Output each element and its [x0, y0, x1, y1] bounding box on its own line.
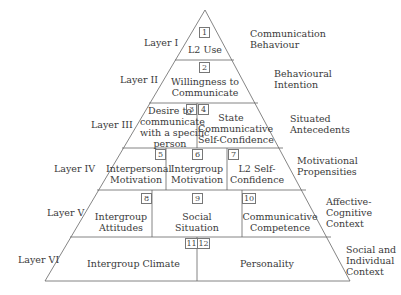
layer-6-label: Layer VI — [18, 254, 59, 265]
box-number-9: 9 — [192, 193, 203, 204]
box-number-6: 6 — [192, 149, 203, 160]
category-layer-5: Affective-CognitiveContext — [326, 196, 372, 229]
box-10-competence: CommunicativeCompetence — [242, 211, 318, 233]
box-number-8: 8 — [141, 193, 152, 204]
box-number-2: 2 — [199, 62, 210, 73]
box-1-l2-use: L2 Use — [175, 44, 235, 55]
box-number-1: 1 — [199, 27, 210, 38]
box-3-desire: Desire tocommunicatewith a specificperso… — [140, 105, 200, 149]
category-layer-1: CommunicationBehaviour — [250, 28, 326, 50]
category-layer-2: BehaviouralIntention — [274, 68, 332, 90]
box-number-10: 10 — [242, 193, 256, 204]
layer-2-label: Layer II — [120, 74, 158, 85]
layer-3-label: Layer III — [91, 119, 133, 130]
category-layer-3: SituatedAntecedents — [290, 113, 350, 135]
box-12-personality: Personality — [197, 258, 337, 269]
box-number-12: 12 — [197, 238, 210, 249]
box-4-state-confidence: StateCommunicativeSelf-Confidence — [198, 112, 264, 145]
box-5-interpersonal: InterpersonalMotivation — [106, 163, 166, 185]
box-number-7: 7 — [228, 149, 239, 160]
box-7-l2-self-confidence: L2 Self-Confidence — [228, 163, 286, 185]
box-2-willingness: Willingness toCommunicate — [160, 76, 250, 98]
layer-1-label: Layer I — [144, 37, 178, 48]
category-layer-4: MotivationalPropensities — [297, 155, 358, 177]
layer-5-label: Layer V — [47, 207, 84, 218]
box-9-social-situation: SocialSituation — [152, 211, 242, 233]
layer-4-label: Layer IV — [54, 163, 95, 174]
category-layer-6: Social andIndividualContext — [346, 244, 396, 277]
box-8-attitudes: IntergroupAttitudes — [90, 211, 152, 233]
box-6-intergroup-motivation: IntergroupMotivation — [167, 163, 227, 185]
box-11-intergroup-climate: Intergroup Climate — [70, 258, 197, 269]
box-number-5: 5 — [155, 149, 166, 160]
